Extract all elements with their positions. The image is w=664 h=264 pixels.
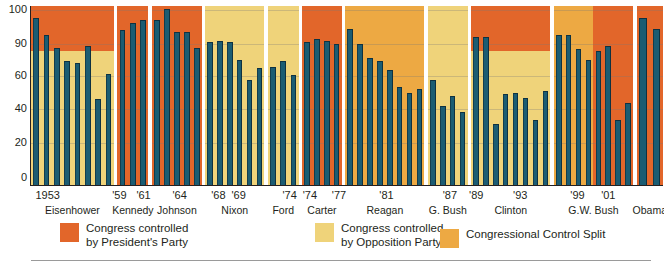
year-label: '74	[283, 188, 297, 202]
bar	[154, 20, 160, 186]
era-panel-kennedy	[117, 6, 148, 186]
chart-legend: Congress controlled by President's Party…	[0, 222, 664, 258]
x-axis-president-labels: EisenhowerKennedyJohnsonNixonFordCarterR…	[31, 203, 663, 219]
bar	[460, 112, 466, 186]
legend-swatch-control-split	[440, 229, 459, 248]
bar	[64, 61, 70, 186]
bar-group	[345, 6, 424, 186]
year-label: '87	[443, 188, 457, 202]
year-label: '69	[231, 188, 245, 202]
year-label: '89	[469, 188, 483, 202]
legend-item-presidents-party: Congress controlled by President's Party	[60, 222, 188, 249]
plot-area	[31, 6, 663, 186]
bar	[586, 60, 592, 186]
bar	[493, 124, 499, 186]
bar	[75, 63, 81, 186]
president-label-johnson: Johnson	[157, 203, 197, 217]
year-label: '93	[513, 188, 527, 202]
bar-group	[302, 6, 342, 186]
era-panel-eisenhower	[31, 6, 114, 186]
year-label: '74	[303, 188, 317, 202]
bar-group	[471, 6, 550, 186]
bar	[44, 35, 50, 186]
bar-group	[554, 6, 633, 186]
bar	[576, 49, 582, 186]
president-label-kennedy: Kennedy	[112, 203, 153, 217]
bar	[533, 120, 539, 186]
bar	[85, 46, 91, 186]
year-label: '81	[379, 188, 393, 202]
y-axis-tick-90: 90	[15, 38, 27, 49]
bar-group	[268, 6, 299, 186]
legend-item-control-split: Congressional Control Split	[440, 228, 605, 248]
bar	[140, 20, 146, 186]
y-axis-tick-0: 0	[21, 172, 27, 183]
era-panel-obama	[637, 6, 663, 186]
bar	[194, 48, 200, 186]
bar	[407, 93, 413, 186]
bar	[513, 93, 519, 186]
year-label: '68	[211, 188, 225, 202]
legend-swatch-opposition-party	[315, 223, 334, 242]
era-panel-clinton	[471, 6, 550, 186]
bar	[473, 37, 479, 186]
bar	[430, 80, 436, 186]
bar-group	[117, 6, 148, 186]
bar	[417, 89, 423, 186]
y-axis-tick-100: 100	[9, 4, 27, 15]
legend-label: Congressional Control Split	[466, 228, 605, 242]
bar	[367, 58, 373, 186]
x-axis-year-labels: 1953'59'61'64'68'69'74'74'77'81'87'89'93…	[31, 188, 663, 204]
bar	[227, 42, 233, 186]
era-panel-johnson	[152, 6, 202, 186]
footer-rule	[31, 260, 651, 261]
bar	[566, 35, 572, 186]
era-panel-g-w-bush	[554, 6, 633, 186]
y-axis-tick-20: 20	[15, 137, 27, 148]
president-label-obama: Obama	[633, 203, 664, 217]
year-label: '61	[136, 188, 150, 202]
bar	[54, 48, 60, 186]
year-label: '64	[172, 188, 186, 202]
bar	[304, 42, 310, 186]
bar	[483, 37, 489, 186]
bar	[270, 67, 276, 186]
legend-label: Congress controlled by Opposition Party	[341, 222, 443, 249]
y-axis: 100906040200	[0, 0, 30, 186]
era-panel-carter	[302, 6, 342, 186]
y-axis-tick-40: 40	[15, 103, 27, 114]
era-panel-ford	[268, 6, 299, 186]
era-panel-nixon	[205, 6, 264, 186]
bar	[291, 75, 297, 186]
bar-group	[428, 6, 468, 186]
bar	[503, 94, 509, 186]
bar-group	[637, 6, 663, 186]
bar	[556, 35, 562, 186]
bar	[247, 80, 253, 186]
era-panel-g-bush	[428, 6, 468, 186]
chart-page: 100906040200 1953'59'61'64'68'69'74'74'7…	[0, 0, 664, 264]
bar	[596, 51, 602, 186]
bar	[605, 46, 611, 186]
bar	[164, 9, 170, 186]
bar	[377, 61, 383, 186]
bar	[33, 18, 39, 186]
x-axis-line	[31, 185, 663, 186]
legend-item-opposition-party: Congress controlled by Opposition Party	[315, 222, 443, 249]
bar	[543, 91, 549, 186]
bar	[324, 41, 330, 186]
bar	[257, 68, 263, 186]
year-label: '99	[570, 188, 584, 202]
bar-group	[205, 6, 264, 186]
bar	[357, 44, 363, 186]
bar	[334, 44, 340, 186]
year-label: '77	[332, 188, 346, 202]
president-label-reagan: Reagan	[366, 203, 403, 217]
bar	[625, 103, 631, 186]
bar	[237, 60, 243, 186]
president-label-ford: Ford	[272, 203, 294, 217]
year-label: 1953	[35, 188, 59, 202]
bar	[174, 32, 180, 186]
bar	[450, 96, 456, 186]
president-label-g-w-bush: G.W. Bush	[568, 203, 618, 217]
